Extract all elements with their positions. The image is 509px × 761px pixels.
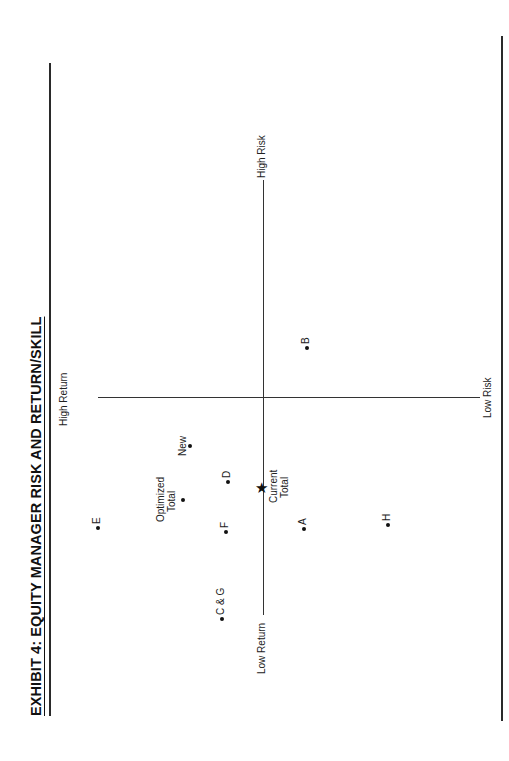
low-return-label: Low Return <box>256 623 267 674</box>
point-h <box>386 523 390 527</box>
label-f: F <box>219 522 230 528</box>
point-current-total-star: ★ <box>255 480 268 495</box>
low-risk-label: Low Risk <box>482 377 493 418</box>
label-h: H <box>381 514 392 521</box>
label-d: D <box>221 471 232 478</box>
left-rule <box>49 63 51 716</box>
point-b <box>305 346 309 350</box>
label-optimized-total: Total <box>166 491 177 512</box>
label-new: New <box>177 436 188 456</box>
right-rule <box>501 36 503 721</box>
point-c-and-g <box>220 617 224 621</box>
point-f <box>224 530 228 534</box>
risk-axis-line <box>263 180 264 615</box>
label-a: A <box>297 518 308 525</box>
label-optimized: Optimized <box>155 477 166 522</box>
label-current-total: Total <box>279 477 290 498</box>
point-e <box>96 526 100 530</box>
return-axis-line <box>98 397 480 398</box>
point-d <box>226 480 230 484</box>
label-c-and-g: C & G <box>215 588 226 615</box>
high-return-label: High Return <box>58 373 69 426</box>
label-e: E <box>91 517 102 524</box>
point-new <box>188 444 192 448</box>
chart-title: EXHIBIT 4: EQUITY MANAGER RISK AND RETUR… <box>28 317 44 716</box>
label-b: B <box>300 337 311 344</box>
point-a <box>302 527 306 531</box>
high-risk-label: High Risk <box>256 135 267 178</box>
label-current: Current <box>268 470 279 503</box>
point-optimized-total <box>181 498 185 502</box>
